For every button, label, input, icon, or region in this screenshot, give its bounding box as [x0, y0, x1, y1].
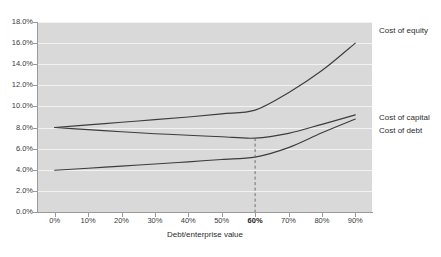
y-tick-label: 16.0% [1, 39, 33, 47]
series-label: Cost of capital [379, 113, 430, 123]
gridline [38, 85, 372, 86]
y-axis-labels: 18.0% 16.0% 14.0% 12.0% 10.0% 8.0% 6.0% … [0, 0, 33, 257]
x-axis-title: Debt/enterprise value [38, 230, 372, 239]
gridline [38, 128, 372, 129]
y-tick-label: 6.0% [1, 145, 33, 153]
gridline [38, 191, 372, 192]
gridline [38, 43, 372, 44]
y-tick-label: 4.0% [1, 166, 33, 174]
series-label: Cost of equity [379, 26, 428, 36]
y-tick-label: 12.0% [1, 81, 33, 89]
y-tick-label: 14.0% [1, 60, 33, 68]
gridline [38, 149, 372, 150]
series-label: Cost of debt [379, 126, 422, 136]
y-tick-label: 10.0% [1, 102, 33, 110]
y-tick-label: 2.0% [1, 187, 33, 195]
plot-area [38, 22, 372, 212]
y-tick-label: 18.0% [1, 18, 33, 26]
gridline [38, 170, 372, 171]
y-axis-line [37, 22, 38, 213]
gridline [38, 64, 372, 65]
y-tick-label: 0.0% [1, 208, 33, 216]
gridline [38, 22, 372, 23]
y-tick-label: 8.0% [1, 124, 33, 132]
chart-container: 18.0% 16.0% 14.0% 12.0% 10.0% 8.0% 6.0% … [0, 0, 441, 257]
x-tick-label: 90% [335, 216, 375, 225]
gridline [38, 106, 372, 107]
